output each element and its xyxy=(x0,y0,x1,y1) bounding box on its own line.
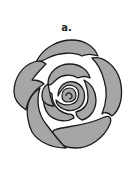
rose-illustration xyxy=(0,0,133,171)
inner-bud xyxy=(62,88,76,102)
outer-petal-top xyxy=(36,40,98,62)
outer-petal-right xyxy=(92,58,122,116)
